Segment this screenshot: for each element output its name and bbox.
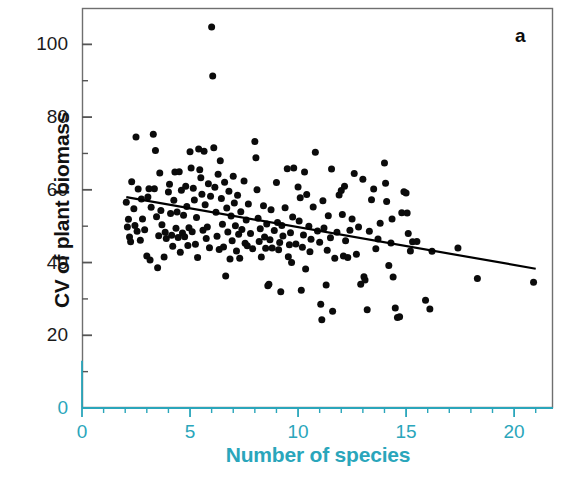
scatter-points: [123, 23, 537, 323]
regression-line: [126, 197, 535, 269]
figure-panel-a: CV of plant biomass Number of species a …: [0, 0, 571, 480]
scatter-plot-canvas: [0, 0, 571, 480]
